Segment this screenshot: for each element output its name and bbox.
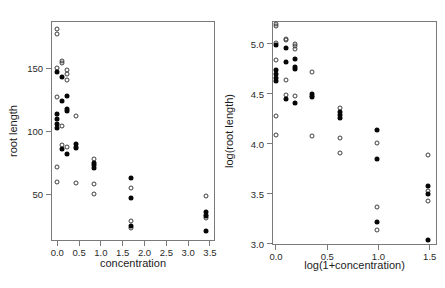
- open-data-point: [203, 193, 208, 198]
- y-axis-tick: [267, 93, 272, 94]
- filled-data-point: [64, 152, 69, 157]
- y-tick-label: 5.0: [240, 38, 264, 49]
- open-data-point: [64, 71, 69, 76]
- open-data-point: [375, 227, 380, 232]
- filled-data-point: [273, 78, 278, 83]
- filled-data-point: [59, 99, 64, 104]
- filled-data-point: [425, 191, 430, 196]
- right-y-axis-title: log(root length): [223, 94, 235, 168]
- y-axis-tick: [267, 43, 272, 44]
- y-tick-label: 50: [19, 189, 43, 200]
- x-tick-label: 0.5: [321, 251, 334, 262]
- y-axis-tick: [46, 68, 51, 69]
- open-data-point: [337, 150, 342, 155]
- open-data-point: [273, 57, 278, 62]
- filled-data-point: [129, 223, 134, 228]
- x-tick-label: 3.5: [203, 247, 216, 258]
- filled-data-point: [293, 56, 298, 61]
- y-axis-tick: [46, 194, 51, 195]
- open-data-point: [284, 77, 289, 82]
- x-axis-tick: [79, 241, 80, 246]
- filled-data-point: [273, 42, 278, 47]
- open-data-point: [425, 152, 430, 157]
- y-tick-label: 100: [19, 126, 43, 137]
- y-tick-label: 150: [19, 63, 43, 74]
- x-axis-tick: [57, 241, 58, 246]
- filled-data-point: [284, 59, 289, 64]
- open-data-point: [293, 93, 298, 98]
- open-data-point: [64, 77, 69, 82]
- filled-data-point: [203, 213, 208, 218]
- x-axis-tick: [166, 241, 167, 246]
- open-data-point: [309, 133, 314, 138]
- left-x-axis-title: concentration: [51, 257, 215, 269]
- filled-data-point: [337, 115, 342, 120]
- x-axis-tick: [429, 245, 430, 250]
- open-data-point: [273, 23, 278, 28]
- open-data-point: [293, 46, 298, 51]
- right-plot-area: [272, 21, 437, 245]
- filled-data-point: [64, 94, 69, 99]
- x-tick-label: 1.0: [94, 247, 107, 258]
- filled-data-point: [284, 96, 289, 101]
- filled-data-point: [425, 183, 430, 188]
- x-tick-label: 2.0: [138, 247, 151, 258]
- filled-data-point: [375, 127, 380, 132]
- left-y-axis-title: root length: [7, 105, 19, 157]
- open-data-point: [273, 113, 278, 118]
- x-axis-tick: [188, 241, 189, 246]
- open-data-point: [92, 182, 97, 187]
- open-data-point: [284, 37, 289, 42]
- filled-data-point: [129, 176, 134, 181]
- open-data-point: [273, 132, 278, 137]
- y-axis-tick: [267, 143, 272, 144]
- open-data-point: [73, 181, 78, 186]
- filled-data-point: [425, 237, 430, 242]
- x-tick-label: 1.5: [423, 251, 436, 262]
- x-tick-label: 0.0: [51, 247, 64, 258]
- open-data-point: [59, 61, 64, 66]
- filled-data-point: [64, 109, 69, 114]
- y-tick-label: 3.5: [240, 188, 264, 199]
- x-axis-tick: [209, 241, 210, 246]
- x-tick-label: 2.5: [160, 247, 173, 258]
- x-axis-tick: [327, 245, 328, 250]
- open-data-point: [64, 144, 69, 149]
- filled-data-point: [375, 156, 380, 161]
- open-data-point: [129, 186, 134, 191]
- filled-data-point: [59, 147, 64, 152]
- right-x-axis-title: log(1+concentration): [272, 259, 437, 271]
- left-plot-area: [51, 21, 215, 241]
- filled-data-point: [203, 228, 208, 233]
- x-axis-tick: [144, 241, 145, 246]
- open-data-point: [92, 192, 97, 197]
- open-data-point: [55, 164, 60, 169]
- x-tick-label: 0.5: [72, 247, 85, 258]
- x-axis-tick: [122, 241, 123, 246]
- x-axis-tick: [100, 241, 101, 246]
- filled-data-point: [129, 196, 134, 201]
- filled-data-point: [55, 125, 60, 130]
- filled-data-point: [59, 75, 64, 80]
- y-axis-tick: [46, 131, 51, 132]
- x-tick-label: 1.5: [116, 247, 129, 258]
- filled-data-point: [293, 66, 298, 71]
- open-data-point: [59, 124, 64, 129]
- y-tick-label: 4.0: [240, 138, 264, 149]
- filled-data-point: [309, 94, 314, 99]
- x-axis-tick: [275, 245, 276, 250]
- filled-data-point: [293, 100, 298, 105]
- open-data-point: [55, 179, 60, 184]
- open-data-point: [73, 114, 78, 119]
- y-axis-tick: [267, 193, 272, 194]
- filled-data-point: [375, 219, 380, 224]
- filled-data-point: [55, 70, 60, 75]
- x-tick-label: 1.0: [372, 251, 385, 262]
- filled-data-point: [73, 145, 78, 150]
- open-data-point: [375, 140, 380, 145]
- open-data-point: [55, 32, 60, 37]
- y-tick-label: 3.0: [240, 238, 264, 249]
- x-tick-label: 3.0: [182, 247, 195, 258]
- filled-data-point: [284, 45, 289, 50]
- x-tick-label: 0.0: [269, 251, 282, 262]
